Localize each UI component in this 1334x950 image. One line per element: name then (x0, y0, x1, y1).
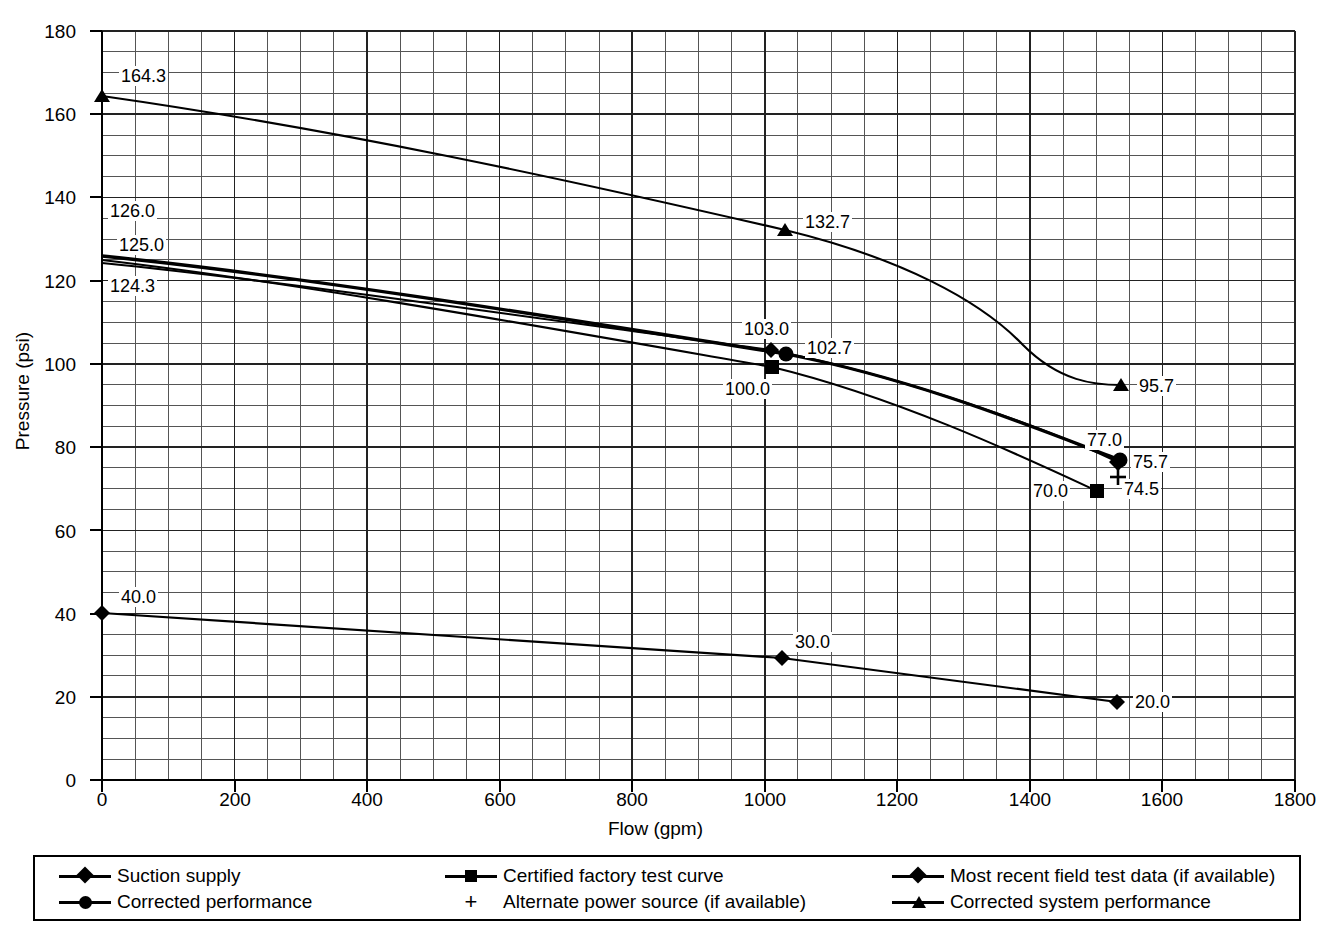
legend-label-corrected-system-performance: Corrected system performance (950, 891, 1211, 913)
marker-circle-102-7 (779, 347, 794, 362)
marker-triangle-164-3 (94, 89, 110, 102)
legend-label-suction-supply: Suction supply (117, 865, 241, 887)
data-label-75-7: 75.7 (1131, 452, 1170, 472)
legend-column-2: Certified factory test curve + Alternate… (443, 863, 806, 915)
xtick-200: 200 (195, 789, 275, 811)
marker-square-70-0 (1090, 484, 1104, 498)
data-label-164-3: 164.3 (119, 66, 168, 86)
legend-item-most-recent-field-test-data[interactable]: Most recent field test data (if availabl… (890, 863, 1275, 889)
data-label-102-7: 102.7 (805, 338, 854, 358)
diamond-marker-icon (890, 866, 946, 886)
data-label-124-3: 124.3 (108, 276, 157, 296)
legend-label-corrected-performance: Corrected performance (117, 891, 312, 913)
data-label-125-0: 125.0 (117, 235, 166, 255)
square-marker-icon (443, 866, 499, 886)
xtick-800: 800 (592, 789, 672, 811)
chart-plot-area: 180 160 140 120 100 80 60 40 20 0 0 200 … (0, 0, 1334, 830)
ytick-120: 120 (16, 271, 76, 293)
xtick-1000: 1000 (725, 789, 805, 811)
ytick-140: 140 (16, 187, 76, 209)
data-label-95-7: 95.7 (1137, 376, 1176, 396)
x-axis-title: Flow (gpm) (608, 818, 703, 840)
axis-ticks (90, 31, 1295, 792)
xtick-1400: 1400 (990, 789, 1070, 811)
legend-item-suction-supply[interactable]: Suction supply (57, 863, 312, 889)
ytick-40: 40 (16, 604, 76, 626)
diamond-marker-icon (57, 866, 113, 886)
xtick-0: 0 (62, 789, 142, 811)
legend-item-certified-factory-test-curve[interactable]: Certified factory test curve (443, 863, 806, 889)
triangle-marker-icon (890, 892, 946, 912)
marker-diamond-30-0 (774, 650, 790, 666)
series-corrected-system-performance (102, 96, 1121, 385)
circle-marker-icon (57, 892, 113, 912)
legend-label-most-recent-field-test-data: Most recent field test data (if availabl… (950, 865, 1275, 887)
ytick-160: 160 (16, 104, 76, 126)
marker-square-100-0 (765, 360, 779, 374)
data-label-20-0: 20.0 (1133, 692, 1172, 712)
pump-performance-chart-page: 180 160 140 120 100 80 60 40 20 0 0 200 … (0, 0, 1334, 950)
plus-marker-icon: + (443, 892, 499, 912)
legend-item-corrected-system-performance[interactable]: Corrected system performance (890, 889, 1275, 915)
data-label-100-0: 100.0 (723, 379, 772, 399)
ytick-20: 20 (16, 687, 76, 709)
data-label-132-7: 132.7 (803, 212, 852, 232)
data-label-30-0: 30.0 (793, 632, 832, 652)
legend-item-corrected-performance[interactable]: Corrected performance (57, 889, 312, 915)
marker-group (94, 89, 1129, 710)
legend-item-alternate-power-source[interactable]: + Alternate power source (if available) (443, 889, 806, 915)
data-label-126-0: 126.0 (108, 201, 157, 221)
y-axis-title: Pressure (psi) (12, 321, 34, 461)
marker-diamond-40-0 (94, 605, 110, 621)
data-label-70-0: 70.0 (1031, 481, 1070, 501)
xtick-600: 600 (460, 789, 540, 811)
series-suction-supply (102, 613, 1117, 702)
series-corrected-performance (102, 256, 1120, 460)
data-label-40-0: 40.0 (119, 587, 158, 607)
legend-label-alternate-power-source: Alternate power source (if available) (503, 891, 806, 913)
xtick-1600: 1600 (1122, 789, 1202, 811)
marker-circle-77-0 (1113, 453, 1128, 468)
data-label-103-0: 103.0 (742, 319, 791, 339)
legend-column-1: Suction supply Corrected performance (57, 863, 312, 915)
xtick-1800: 1800 (1255, 789, 1334, 811)
data-label-74-5: 74.5 (1122, 479, 1161, 499)
data-label-77-0: 77.0 (1085, 430, 1124, 450)
xtick-400: 400 (327, 789, 407, 811)
xtick-1200: 1200 (857, 789, 937, 811)
chart-legend: Suction supply Corrected performance Cer… (33, 855, 1301, 921)
ytick-60: 60 (16, 521, 76, 543)
legend-label-certified-factory-test-curve: Certified factory test curve (503, 865, 724, 887)
legend-column-3: Most recent field test data (if availabl… (890, 863, 1275, 915)
ytick-180: 180 (16, 21, 76, 43)
